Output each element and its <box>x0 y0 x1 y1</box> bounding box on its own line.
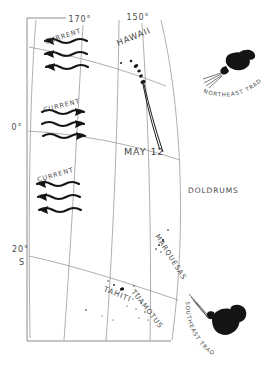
pacific-voyage-chart: 170° 150° 0° 20° S CURRENT CURRENT <box>0 0 264 376</box>
latitude-label-20s-hemisphere: S <box>19 258 25 267</box>
current-label-south-equatorial: CURRENT <box>36 166 74 184</box>
latitude-label-equator: 0° <box>12 123 23 132</box>
latitude-label-20s: 20° <box>12 245 29 254</box>
northeast-trades-wind-icon <box>203 50 255 88</box>
place-label-tahiti: TAHITI <box>101 284 132 304</box>
voyage-track <box>143 84 163 152</box>
current-arrows-south-equatorial <box>37 180 81 214</box>
annotation-doldrums: DOLDRUMS <box>188 186 239 195</box>
wind-label-southeast-trades: SOUTHEAST TRADES <box>0 0 216 356</box>
place-label-hawaii: HAWAII <box>115 25 152 48</box>
longitude-label-150: 150° <box>127 13 150 22</box>
annotation-may-12: MAY 12 <box>124 146 164 157</box>
current-label-equatorial-countercurrent: CURRENT <box>43 97 81 114</box>
longitude-label-170: 170° <box>69 15 92 24</box>
place-label-marquesas: MARQUESAS <box>153 233 188 282</box>
southeast-trades-wind-icon <box>189 294 246 335</box>
map-canvas: 170° 150° 0° 20° S CURRENT CURRENT <box>0 0 264 376</box>
hawaii-islands <box>120 60 146 85</box>
